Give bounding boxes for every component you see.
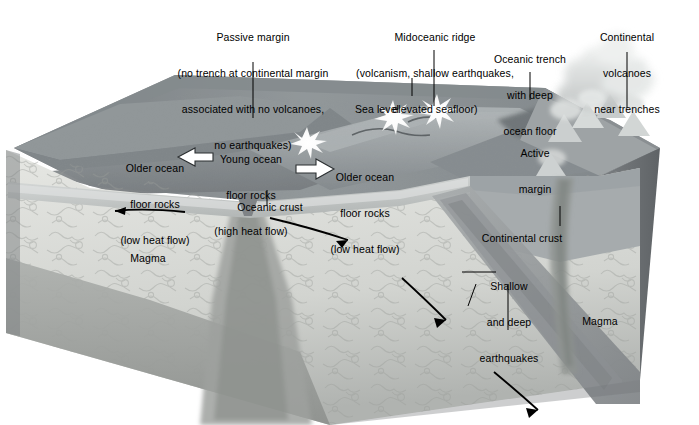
- callout-active-margin-line-2: margin: [504, 184, 566, 196]
- callout-oceanic-crust-line-1: Oceanic crust: [225, 202, 315, 214]
- callout-magma-right: Magma: [562, 292, 638, 352]
- callout-passive-margin-line-2: (no trench at continental margin: [153, 68, 353, 80]
- callout-older-ocean-floor-right-line-3: (low heat flow): [312, 244, 418, 256]
- diagram-canvas: Passive margin (no trench at continental…: [0, 0, 699, 425]
- callout-passive-margin-line-3: associated with no volcanoes,: [153, 104, 353, 116]
- callout-active-margin: Active margin: [504, 124, 566, 220]
- callout-passive-margin-line-1: Passive margin: [153, 32, 353, 44]
- callout-continental-volcanoes-line-2: volcanoes: [572, 68, 682, 80]
- callout-oceanic-trench-line-1: Oceanic trench: [474, 54, 586, 66]
- callout-continental-volcanoes-line-1: Continental: [572, 32, 682, 44]
- callout-active-margin-line-1: Active: [504, 148, 566, 160]
- callout-older-ocean-floor-right-line-1: Older ocean: [312, 172, 418, 184]
- callout-older-ocean-floor-left-line-2: floor rocks: [100, 199, 210, 211]
- callout-older-ocean-floor-right-line-2: floor rocks: [312, 208, 418, 220]
- callout-oceanic-crust: Oceanic crust: [225, 178, 315, 238]
- callout-shallow-deep-earthquakes-line-2: and deep: [466, 317, 552, 329]
- callout-continental-volcanoes: Continental volcanoes near trenches: [572, 8, 682, 140]
- callout-magma-left-line-1: Magma: [110, 253, 186, 265]
- callout-magma-right-line-1: Magma: [562, 316, 638, 328]
- callout-continental-crust-line-1: Continental crust: [460, 233, 584, 245]
- callout-shallow-deep-earthquakes: Shallow and deep earthquakes: [466, 257, 552, 389]
- callout-older-ocean-floor-left-line-1: Older ocean: [100, 163, 210, 175]
- callout-continental-volcanoes-line-3: near trenches: [572, 104, 682, 116]
- block-left-side-face: [6, 150, 20, 336]
- callout-young-ocean-floor-line-1: Young ocean: [196, 154, 306, 166]
- callout-shallow-deep-earthquakes-line-1: Shallow: [466, 281, 552, 293]
- callout-magma-left: Magma: [110, 229, 186, 289]
- callout-shallow-deep-earthquakes-line-3: earthquakes: [466, 353, 552, 365]
- callout-sea-level-line-1: Sea level: [335, 104, 419, 116]
- callout-oceanic-trench-line-2: with deep: [474, 90, 586, 102]
- callout-older-ocean-floor-right: Older ocean floor rocks (low heat flow): [312, 148, 418, 280]
- callout-sea-level: Sea level: [335, 80, 419, 140]
